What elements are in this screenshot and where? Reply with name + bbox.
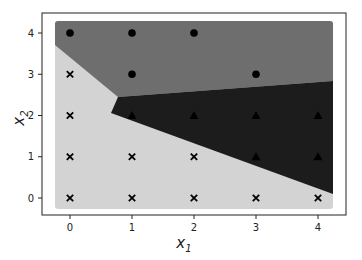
x-axis-ticks: 01234: [67, 215, 321, 233]
x-tick-label: 4: [315, 222, 321, 233]
x-tick-label: 1: [129, 222, 135, 233]
decision-boundary-plot: 01234 01234 x1 x2: [0, 0, 362, 260]
circle-marker: [128, 70, 136, 78]
y-axis-label: x2: [10, 110, 30, 126]
circle-marker: [252, 70, 260, 78]
y-tick-label: 0: [28, 193, 34, 204]
circle-marker: [128, 29, 136, 37]
x-tick-label: 3: [253, 222, 259, 233]
x-tick-label: 2: [191, 222, 197, 233]
y-tick-label: 4: [28, 28, 34, 39]
y-tick-label: 1: [28, 151, 34, 162]
circle-marker: [66, 29, 74, 37]
x-tick-label: 0: [67, 222, 73, 233]
x-axis-label: x1: [175, 234, 191, 254]
y-tick-label: 3: [28, 69, 34, 80]
circle-marker: [190, 29, 198, 37]
